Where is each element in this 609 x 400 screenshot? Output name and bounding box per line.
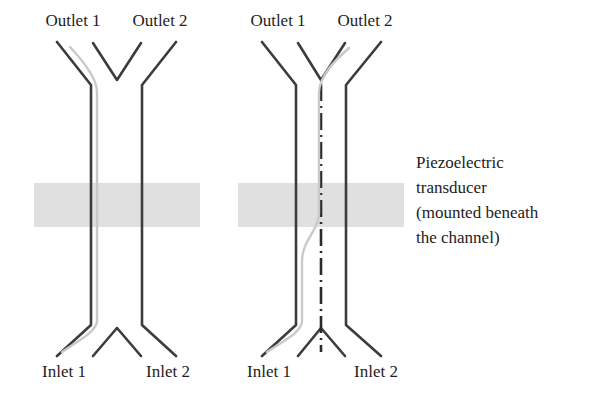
junction-wedge-top-right <box>298 43 345 80</box>
label-inlet-2-left: Inlet 2 <box>146 362 190 381</box>
junction-wedge-bottom-left <box>93 328 141 356</box>
panel-transducer-on <box>238 42 404 356</box>
transducer-annotation: Piezoelectric transducer (mounted beneat… <box>416 150 606 250</box>
transducer-band-left <box>34 183 200 227</box>
label-outlet-1-left: Outlet 1 <box>45 11 100 30</box>
annotation-line-2: transducer <box>416 175 606 200</box>
panel-transducer-off <box>34 42 200 356</box>
label-outlet-2-left: Outlet 2 <box>132 11 187 30</box>
annotation-line-4: the channel) <box>416 225 606 250</box>
junction-wedge-top-left <box>93 43 141 80</box>
annotation-line-3: (mounted beneath <box>416 200 606 225</box>
label-inlet-1-right: Inlet 1 <box>247 362 291 381</box>
annotation-line-1: Piezoelectric <box>416 150 606 175</box>
label-outlet-2-right: Outlet 2 <box>337 11 392 30</box>
label-inlet-2-right: Inlet 2 <box>354 362 398 381</box>
label-outlet-1-right: Outlet 1 <box>250 11 305 30</box>
label-inlet-1-left: Inlet 1 <box>42 362 86 381</box>
microfluidic-diagram: Outlet 1 Outlet 2 Inlet 1 Inlet 2 Outlet… <box>0 0 609 400</box>
